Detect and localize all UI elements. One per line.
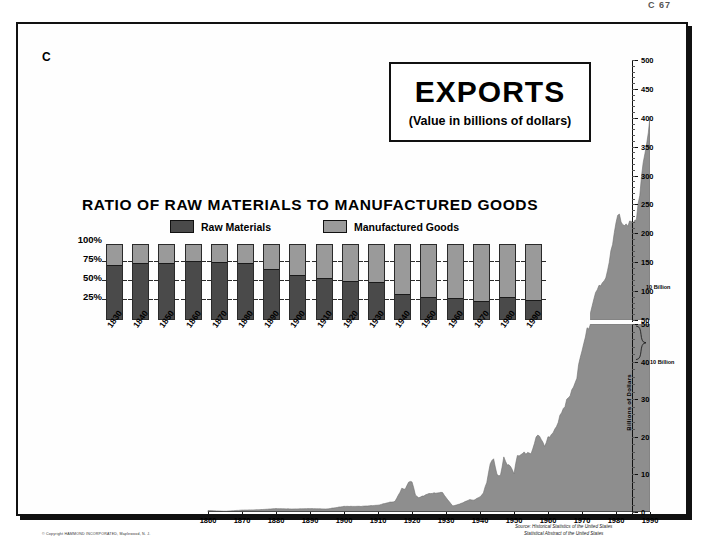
legend-label-raw: Raw Materials <box>201 221 271 233</box>
ratio-gridline-tick <box>358 299 363 300</box>
ratio-gridline-tick <box>207 280 212 281</box>
ratio-gridline-tick <box>259 261 264 262</box>
axis-minor-tick <box>632 83 635 84</box>
ratio-gridline-tick <box>515 261 520 262</box>
ratio-gridline-tick <box>416 261 421 262</box>
axis-minor-tick <box>632 437 635 438</box>
ratio-gridline-tick <box>390 280 395 281</box>
y-axis-upper: 50100150200250300350400450500 <box>632 60 694 322</box>
ratio-gridline-tick <box>390 261 395 262</box>
axis-minor-tick <box>632 204 635 205</box>
ratio-gridline-tick <box>148 261 153 262</box>
ratio-gridline-tick <box>122 299 127 300</box>
ratio-gridline-tick <box>154 280 159 281</box>
axis-minor-tick <box>632 187 635 188</box>
ratio-gridline-tick <box>410 261 415 262</box>
ratio-gridline-tick <box>332 280 337 281</box>
ratio-gridline-tick <box>154 299 159 300</box>
ratio-gridline-tick <box>436 299 441 300</box>
x-axis-tick <box>310 512 311 515</box>
ratio-gridline-tick <box>463 299 468 300</box>
axis-minor-tick <box>632 181 635 182</box>
axis-minor-tick <box>632 251 635 252</box>
axis-minor-tick <box>632 118 635 119</box>
ratio-gridline-tick <box>332 261 337 262</box>
plate-letter: C <box>42 50 51 64</box>
ratio-gridline-tick <box>174 299 179 300</box>
ratio-gridline-tick <box>364 299 369 300</box>
ratio-gridline-tick <box>358 261 363 262</box>
axis-minor-tick <box>632 489 635 490</box>
x-axis-tick-label: 1880 <box>268 516 285 525</box>
bracket-path <box>636 326 646 360</box>
axis-minor-tick <box>632 452 635 453</box>
source-note: Source: Historical Statistics of the Uni… <box>515 524 612 537</box>
ratio-gridline-tick <box>443 299 448 300</box>
ratio-gridline-tick <box>515 299 520 300</box>
ratio-gridline-tick <box>279 299 284 300</box>
ratio-gridline-tick <box>227 299 232 300</box>
x-axis-tick <box>344 512 345 515</box>
ratio-gridline-tick <box>384 261 389 262</box>
ratio-gridline-tick <box>489 280 494 281</box>
chart-page: C 67 C EXPORTS (Value in billions of dol… <box>0 0 716 542</box>
ratio-gridline-tick <box>253 280 258 281</box>
ratio-gridline-tick <box>279 261 284 262</box>
ratio-gridline-tick <box>122 280 127 281</box>
ratio-gridline-tick <box>489 261 494 262</box>
ratio-gridline-tick <box>174 280 179 281</box>
x-axis-tick <box>242 512 243 515</box>
x-axis-tick <box>276 512 277 515</box>
axis-minor-tick <box>632 77 635 78</box>
ratio-gridline-tick <box>364 261 369 262</box>
axis-minor-tick <box>632 497 635 498</box>
ratio-gridline-tick <box>463 280 468 281</box>
axis-minor-tick <box>632 112 635 113</box>
axis-minor-tick <box>632 467 635 468</box>
ratio-gridline-tick <box>227 261 232 262</box>
ratio-gridline-tick <box>207 299 212 300</box>
legend-item-raw-materials: Raw Materials <box>170 220 271 233</box>
ratio-gridline-tick <box>285 280 290 281</box>
source-line-2: Statistical Abstract of the United State… <box>515 531 612 538</box>
ratio-gridline-tick <box>201 261 206 262</box>
copyright-note: © Copyright HAMMOND INCORPORATED, Maplew… <box>42 532 150 536</box>
axis-minor-tick <box>632 268 635 269</box>
ratio-gridline-tick <box>148 280 153 281</box>
axis-spine <box>632 60 633 322</box>
ratio-gridline-tick <box>233 299 238 300</box>
ratio-gridline-tick <box>253 299 258 300</box>
axis-minor-tick <box>632 129 635 130</box>
axis-minor-tick <box>632 210 635 211</box>
axis-minor-tick <box>632 170 635 171</box>
ratio-gridline-tick <box>443 280 448 281</box>
axis-minor-tick <box>632 399 635 400</box>
axis-minor-tick <box>632 274 635 275</box>
axis-minor-tick <box>632 106 635 107</box>
ratio-gridline-tick <box>358 280 363 281</box>
legend-label-man: Manufactured Goods <box>354 221 459 233</box>
axis-minor-tick <box>632 262 635 263</box>
x-axis-tick <box>650 512 651 515</box>
ratio-legend: Raw Materials Manufactured Goods <box>170 220 459 233</box>
x-axis-tick-label: 1990 <box>642 516 659 525</box>
axis-tick-label: 450 <box>641 84 654 93</box>
ratio-gridline-tick <box>279 280 284 281</box>
x-axis-tick-label: 1860 <box>200 516 217 525</box>
ratio-gridline-tick <box>253 261 258 262</box>
axis-minor-tick <box>632 152 635 153</box>
bracket-shape <box>634 324 658 384</box>
axis-minor-tick <box>632 314 635 315</box>
chart-plate: C EXPORTS (Value in billions of dollars)… <box>16 22 688 516</box>
x-axis-tick-label: 1900 <box>336 516 353 525</box>
x-axis-tick-label: 1870 <box>234 516 251 525</box>
ratio-gridline-tick <box>436 280 441 281</box>
ratio-gridline-tick <box>338 261 343 262</box>
ratio-gridline-tick <box>463 261 468 262</box>
axis-minor-tick <box>632 444 635 445</box>
ratio-gridline-tick <box>207 261 212 262</box>
ratio-gridline-tick <box>410 280 415 281</box>
y-axis-title: Billions of Dollars <box>626 374 632 431</box>
axis-minor-tick <box>632 297 635 298</box>
axis-spine <box>632 324 633 514</box>
